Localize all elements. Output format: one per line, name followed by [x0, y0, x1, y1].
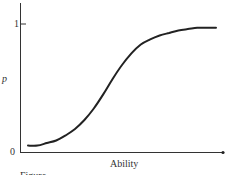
figure-caption: Figure: [20, 171, 46, 175]
y-tick-label-0: 0: [10, 147, 15, 157]
x-axis-label: Ability: [110, 159, 138, 169]
y-tick-label-1: 1: [14, 19, 19, 29]
chart-canvas: [0, 0, 226, 175]
x-axis-arrow: [221, 151, 224, 154]
y-axis-label: p: [2, 74, 7, 84]
icc-curve: [28, 28, 216, 146]
